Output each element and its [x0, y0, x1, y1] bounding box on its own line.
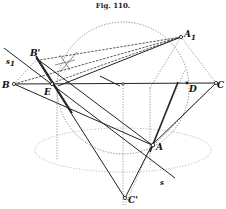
- line-A-C: [152, 83, 216, 145]
- line-s1-s: [4, 48, 175, 178]
- small-tick: [100, 76, 120, 86]
- label-D: D: [188, 84, 197, 94]
- label-s: s: [160, 178, 164, 187]
- line-E-A1: [58, 37, 181, 86]
- label-A: A: [155, 142, 163, 152]
- label-B: B: [1, 80, 10, 90]
- geometry-diagram: B B' E A 1 D C A C' s 1 s: [0, 0, 226, 209]
- line-A-C1: [125, 145, 152, 198]
- point-E: [50, 82, 53, 85]
- label-C: C: [217, 80, 225, 90]
- thick-line-A: [150, 82, 178, 152]
- label-C1: C': [128, 195, 138, 205]
- point-C1: [123, 196, 126, 199]
- label-A1-sub: 1: [191, 33, 196, 42]
- dashed-E-A1: [52, 37, 181, 83]
- label-E: E: [43, 87, 51, 97]
- dotted-A1-C: [181, 37, 216, 83]
- label-B1: B': [29, 48, 40, 58]
- point-B: [12, 82, 15, 85]
- point-A: [151, 143, 155, 147]
- line-B1-C1: [36, 58, 125, 198]
- point-center: [122, 83, 124, 85]
- label-s1-sub: 1: [10, 59, 15, 68]
- point-A1: [179, 35, 182, 38]
- point-D: [186, 82, 189, 85]
- label-A1: A: [183, 29, 191, 39]
- construction-mark: [55, 60, 75, 65]
